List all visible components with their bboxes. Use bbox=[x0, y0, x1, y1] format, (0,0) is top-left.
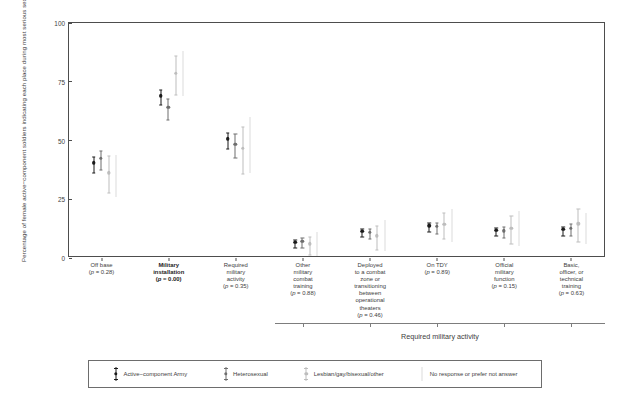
legend-item-label: Heterosexual bbox=[233, 371, 268, 377]
bracket-tick bbox=[437, 323, 438, 327]
x-tick-mark bbox=[370, 258, 371, 261]
legend-item[interactable]: No response or prefer not answer bbox=[419, 366, 518, 382]
y-tick-25: 25 bbox=[58, 196, 69, 203]
legend-key-point bbox=[305, 372, 308, 375]
data-point bbox=[293, 241, 297, 245]
data-point bbox=[234, 142, 237, 145]
confidence-interval-line bbox=[101, 151, 102, 170]
x-tick-mark bbox=[571, 258, 572, 261]
series-mark bbox=[105, 23, 112, 256]
confidence-interval-line bbox=[242, 127, 243, 174]
confidence-interval-line bbox=[235, 134, 236, 158]
series-mark bbox=[508, 23, 515, 256]
ci-cap-upper bbox=[308, 236, 311, 237]
series-mark bbox=[582, 23, 589, 256]
ci-cap-lower bbox=[167, 119, 170, 120]
legend-key-cap-upper bbox=[114, 368, 118, 369]
ci-cap-lower bbox=[510, 244, 513, 245]
data-point bbox=[427, 224, 431, 228]
y-tick-75: 75 bbox=[58, 78, 69, 85]
ci-cap-upper bbox=[495, 227, 499, 228]
series-mark bbox=[366, 23, 373, 256]
x-axis-category-label: On TDY(p = 0.89) bbox=[406, 262, 468, 276]
y-tick-mark bbox=[69, 199, 72, 200]
ci-cap-lower bbox=[368, 239, 371, 240]
data-point bbox=[308, 242, 311, 245]
legend-key-cap-lower bbox=[114, 379, 118, 380]
series-mark bbox=[426, 23, 433, 256]
ci-cap-lower bbox=[360, 237, 364, 238]
series-mark bbox=[180, 23, 187, 256]
series-mark bbox=[299, 23, 306, 256]
data-point bbox=[502, 229, 505, 232]
ci-cap-upper bbox=[174, 55, 177, 56]
ci-cap-upper bbox=[569, 224, 572, 225]
ci-cap-lower bbox=[427, 232, 431, 233]
series-mark bbox=[232, 23, 239, 256]
legend-item[interactable]: Heterosexual bbox=[222, 366, 268, 382]
ci-cap-lower bbox=[495, 236, 499, 237]
series-mark bbox=[433, 23, 440, 256]
ci-cap-upper bbox=[510, 216, 513, 217]
series-mark bbox=[374, 23, 381, 256]
category-label-line: between bbox=[339, 290, 401, 297]
y-tick-mark bbox=[69, 140, 72, 141]
bracket-line bbox=[275, 323, 605, 324]
y-tick-mark bbox=[69, 23, 72, 24]
series-mark bbox=[90, 23, 97, 256]
series-mark bbox=[448, 23, 455, 256]
x-tick-mark bbox=[235, 258, 236, 261]
x-tick-mark bbox=[504, 258, 505, 261]
series-mark bbox=[113, 23, 120, 256]
category-p-value: (p = 0.46) bbox=[339, 312, 401, 319]
legend-item[interactable]: Active−component Army bbox=[112, 366, 187, 382]
legend-key-point bbox=[114, 372, 117, 375]
ci-cap-lower bbox=[308, 254, 311, 255]
legend-key-cap-lower bbox=[224, 379, 228, 380]
category-label-line: military bbox=[272, 269, 334, 276]
y-axis-label-container: Percentage of female active−component so… bbox=[16, 18, 32, 262]
confidence-interval-line bbox=[116, 155, 117, 198]
category-label-line: Off base bbox=[71, 262, 133, 269]
data-point bbox=[562, 227, 566, 231]
series-mark bbox=[567, 23, 574, 256]
ci-cap-upper bbox=[167, 99, 170, 100]
series-mark bbox=[306, 23, 313, 256]
ci-cap-lower bbox=[234, 157, 237, 158]
legend-item-label: No response or prefer not answer bbox=[430, 371, 518, 377]
x-tick-mark bbox=[437, 258, 438, 261]
group-bracket bbox=[275, 323, 605, 331]
bracket-tick bbox=[571, 323, 572, 327]
legend-key-icon bbox=[112, 366, 119, 382]
x-axis-category-label: Militaryinstallation(p = 0.00) bbox=[138, 262, 200, 283]
legend-item[interactable]: Lesbian/gay/bisexual/other bbox=[303, 366, 384, 382]
ci-cap-lower bbox=[174, 94, 177, 95]
ci-cap-upper bbox=[301, 238, 304, 239]
category-label-line: Deployed bbox=[339, 262, 401, 269]
x-axis-category-label: Off base(p = 0.28) bbox=[71, 262, 133, 276]
ci-cap-lower bbox=[241, 173, 244, 174]
bracket-tick bbox=[303, 323, 304, 327]
bracket-tick bbox=[504, 323, 505, 327]
x-axis-category-label: Othermilitarycombattraining(p = 0.88) bbox=[272, 262, 334, 297]
ci-cap-lower bbox=[435, 234, 438, 235]
category-p-value: (p = 0.00) bbox=[138, 276, 200, 283]
ci-cap-upper bbox=[234, 134, 237, 135]
series-mark bbox=[224, 23, 231, 256]
confidence-interval-line bbox=[444, 213, 445, 240]
data-point bbox=[174, 71, 177, 74]
confidence-interval-line bbox=[160, 90, 161, 105]
x-tick-mark bbox=[168, 258, 169, 261]
category-label-line: Basic, bbox=[540, 262, 602, 269]
category-label-line: theaters bbox=[339, 305, 401, 312]
ci-cap-upper bbox=[502, 227, 505, 228]
data-point bbox=[510, 227, 513, 230]
x-axis-category-label: Officialmilitaryfunction(p = 0.15) bbox=[473, 262, 535, 290]
ci-cap-upper bbox=[360, 228, 364, 229]
legend-key-icon bbox=[303, 366, 310, 382]
series-mark bbox=[98, 23, 105, 256]
data-point bbox=[166, 106, 169, 109]
ci-cap-lower bbox=[375, 249, 378, 250]
series-mark bbox=[291, 23, 298, 256]
series-mark bbox=[500, 23, 507, 256]
